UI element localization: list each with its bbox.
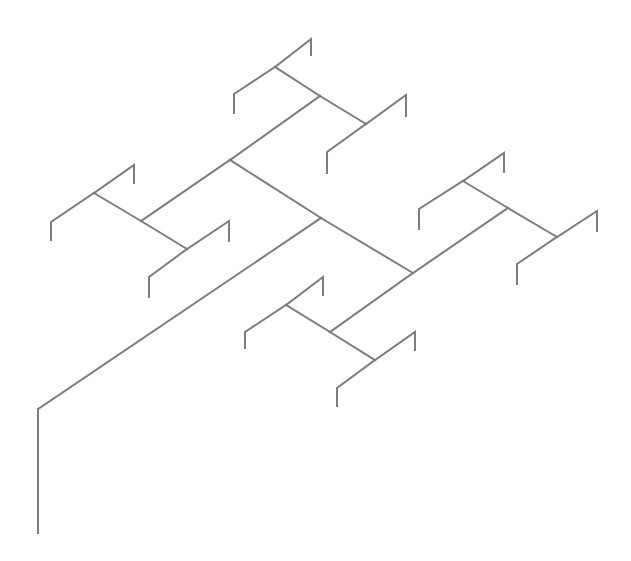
branch-main-lower [321,218,413,273]
branch-ur-down [320,96,366,124]
branch-ul-up-hook-left [51,193,94,240]
branch-lr-down [508,208,557,237]
branch-ul-up-hook-right [94,165,134,193]
branch-lr-down-hook-right [557,211,597,237]
branch-ul-down-hook-right [187,221,229,249]
branch-upper-right-branch [230,96,320,160]
branch-ur-up [275,67,320,96]
branch-lower-left-branch [330,273,413,332]
branch-lower-right-branch [413,208,508,273]
branch-ll-down-hook-right [375,332,415,360]
branch-lr-down-hook-left [517,237,557,284]
branch-ur-down-hook-left [327,124,366,173]
branch-ur-up-hook-right [275,39,311,67]
branch-ul-down-hook-left [149,249,187,297]
branch-main-upper [230,160,321,218]
branch-ll-up-hook-right [286,277,323,305]
branch-ur-down-hook-right [366,95,406,124]
branch-ll-down-hook-left [337,360,375,406]
branch-ul-down [141,221,187,249]
branch-ur-up-hook-left [234,67,275,113]
branch-ll-up-hook-left [245,305,286,348]
branch-lr-up-hook-right [463,153,504,181]
branch-lr-up-hook-left [419,181,463,229]
tree-segments [38,39,597,533]
branch-ll-up [286,305,330,332]
branch-ul-up [94,193,141,221]
branch-ll-down [330,332,375,360]
branch-lr-up [463,181,508,208]
branch-upper-left-branch [141,160,230,221]
branch-trunk-diagonal [38,218,321,409]
fractal-tree-diagram [0,0,631,561]
